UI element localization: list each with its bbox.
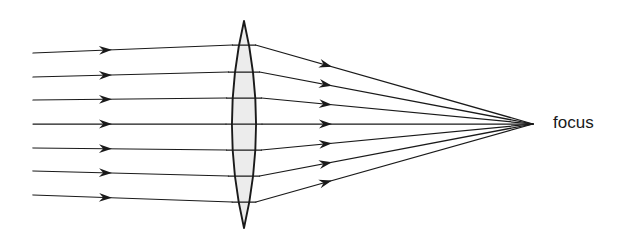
incoming-ray-1 bbox=[33, 45, 232, 53]
incoming-ray-7 bbox=[33, 195, 232, 202]
outgoing-ray-1 bbox=[256, 45, 533, 124]
outgoing-ray-2 bbox=[260, 72, 533, 124]
outgoing-ray-3 bbox=[261, 98, 533, 124]
lens-diagram-canvas: focus bbox=[0, 0, 642, 251]
incoming-ray-2 bbox=[33, 72, 228, 77]
outgoing-ray-5 bbox=[261, 124, 533, 150]
outgoing-ray-7 bbox=[256, 124, 533, 202]
outgoing-ray-6 bbox=[260, 124, 533, 176]
incoming-ray-6 bbox=[33, 171, 228, 176]
incoming-ray-5 bbox=[33, 148, 227, 150]
incoming-ray-3 bbox=[33, 98, 227, 100]
optics-diagram-svg: focus bbox=[0, 0, 642, 251]
focus-label: focus bbox=[553, 113, 594, 132]
incoming-ray-group bbox=[33, 45, 232, 202]
outgoing-ray-group bbox=[256, 45, 533, 202]
